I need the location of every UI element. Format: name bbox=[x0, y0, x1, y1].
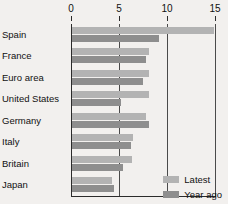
legend-swatch-icon bbox=[163, 191, 179, 198]
bar-latest bbox=[72, 91, 149, 98]
y-axis-category-label: Euro area bbox=[2, 72, 44, 83]
bar-latest bbox=[72, 177, 112, 184]
y-axis-category-label: Britain bbox=[2, 158, 29, 169]
bar-latest bbox=[72, 70, 149, 77]
legend-item: Year ago bbox=[163, 189, 222, 200]
legend-label: Latest bbox=[184, 174, 210, 185]
y-axis-category-label: United States bbox=[2, 93, 59, 104]
legend-label: Year ago bbox=[184, 189, 222, 200]
y-axis-category-label: Germany bbox=[2, 115, 41, 126]
bar-latest bbox=[72, 134, 133, 141]
bar-latest bbox=[72, 27, 214, 34]
bar-year-ago bbox=[72, 78, 143, 85]
x-grid-line bbox=[167, 24, 168, 196]
x-axis-tick-label: 15 bbox=[205, 3, 225, 14]
x-axis-tick-label: 0 bbox=[61, 3, 81, 14]
x-axis-tick-mark bbox=[119, 16, 120, 21]
bar-latest bbox=[72, 48, 149, 55]
bar-latest bbox=[72, 113, 146, 120]
x-axis-tick-mark bbox=[71, 16, 72, 21]
bar-year-ago bbox=[72, 56, 146, 63]
bar-year-ago bbox=[72, 99, 121, 106]
legend-item: Latest bbox=[163, 174, 222, 185]
x-axis-tick-mark bbox=[167, 16, 168, 21]
legend-swatch-icon bbox=[163, 176, 179, 183]
x-axis-tick-mark bbox=[215, 16, 216, 21]
y-axis-category-label: Japan bbox=[2, 179, 28, 190]
bar-year-ago bbox=[72, 121, 149, 128]
y-axis-category-label: France bbox=[2, 50, 32, 61]
bar-latest bbox=[72, 156, 132, 163]
x-axis-tick-label: 10 bbox=[157, 3, 177, 14]
bar-year-ago bbox=[72, 164, 123, 171]
chart-legend: LatestYear ago bbox=[163, 174, 222, 200]
x-grid-line bbox=[215, 24, 216, 196]
bar-year-ago bbox=[72, 185, 114, 192]
y-axis-category-label: Italy bbox=[2, 136, 19, 147]
bar-year-ago bbox=[72, 142, 131, 149]
y-axis-category-label: Spain bbox=[2, 29, 26, 40]
bar-chart: 051015SpainFranceEuro areaUnited StatesG… bbox=[0, 0, 228, 204]
bar-year-ago bbox=[72, 35, 159, 42]
x-axis-tick-label: 5 bbox=[109, 3, 129, 14]
